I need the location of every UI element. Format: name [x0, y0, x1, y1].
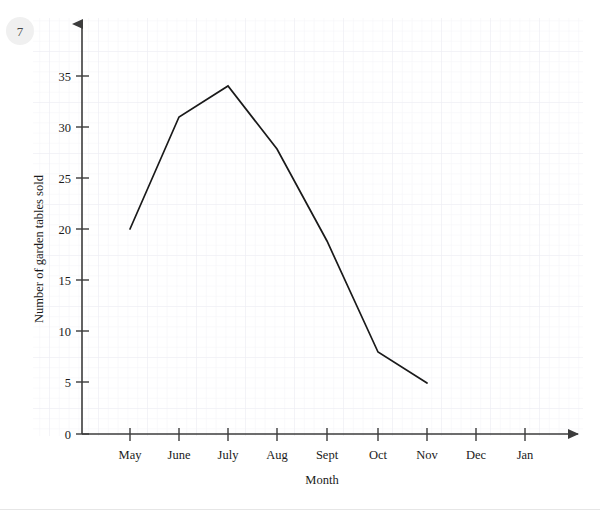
- x-tick-label: Nov: [416, 448, 438, 462]
- y-tick-label: 25: [59, 172, 72, 186]
- y-axis-title: Number of garden tables sold: [32, 174, 46, 323]
- x-axis-title: Month: [305, 473, 339, 487]
- x-tick-label: July: [218, 448, 240, 462]
- y-tick-label: 35: [59, 70, 72, 84]
- x-tick-label: June: [168, 448, 191, 462]
- line-chart-figure: 0 5 10 15 20 25 30 35: [0, 0, 600, 510]
- x-tick-label: May: [119, 448, 143, 462]
- chart-gridlines: [33, 18, 583, 436]
- y-tick-label: 15: [59, 274, 72, 288]
- x-tick-label: Dec: [466, 448, 487, 462]
- chart-svg: 0 5 10 15 20 25 30 35: [0, 0, 600, 510]
- x-tick-label: Jan: [517, 448, 534, 462]
- x-tick-label: Sept: [316, 448, 339, 462]
- x-tick-label: Oct: [369, 448, 388, 462]
- x-tick-label: Aug: [266, 448, 288, 462]
- x-axis-tick-labels: May June July Aug Sept Oct Nov Dec Jan: [119, 448, 535, 462]
- y-tick-label: 0: [65, 428, 71, 442]
- y-tick-label: 10: [59, 325, 72, 339]
- chart-page: 7: [0, 0, 600, 510]
- y-tick-label: 30: [59, 121, 72, 135]
- y-tick-label: 20: [59, 223, 72, 237]
- y-tick-label: 5: [65, 376, 71, 390]
